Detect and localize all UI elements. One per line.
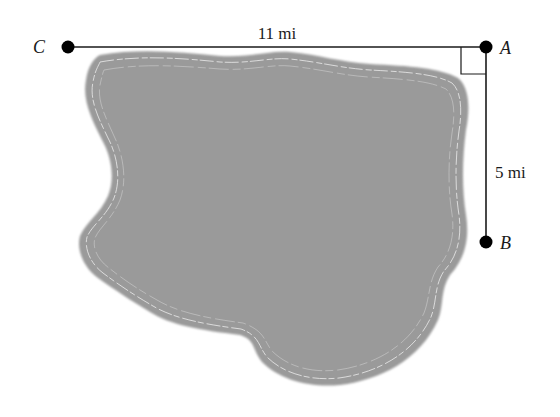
point-c (62, 41, 75, 54)
lake-shape (79, 51, 468, 385)
point-b (480, 236, 493, 249)
label-distance-ca: 11 mi (258, 24, 297, 43)
point-a (480, 41, 493, 54)
label-point-a: A (499, 38, 512, 58)
lake-diagram: C A B 11 mi 5 mi (0, 0, 560, 417)
lake-fill (79, 51, 468, 385)
label-point-b: B (500, 233, 511, 253)
label-distance-ab: 5 mi (495, 163, 526, 182)
label-point-c: C (33, 37, 46, 57)
